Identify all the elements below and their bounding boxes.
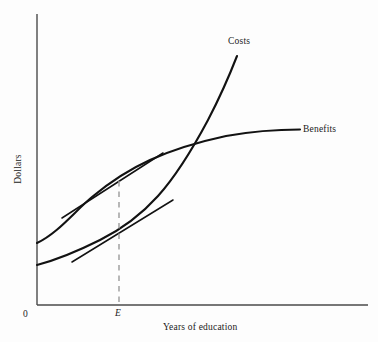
economics-cost-benefit-figure: Costs Benefits Dollars Years of educatio… (0, 0, 378, 342)
x-axis-tick-origin: 0 (23, 309, 28, 319)
x-axis-label: Years of education (163, 322, 237, 332)
chart-canvas (0, 0, 378, 342)
y-axis-label: Dollars (13, 137, 23, 201)
benefits-curve (37, 130, 300, 244)
costs-curve (37, 56, 237, 265)
x-axis-tick-optimal-education: E (115, 308, 121, 318)
costs-series-label: Costs (228, 36, 250, 46)
costs-tangent-line (72, 200, 173, 262)
benefits-series-label: Benefits (303, 124, 336, 134)
benefits-tangent-line (62, 153, 163, 218)
